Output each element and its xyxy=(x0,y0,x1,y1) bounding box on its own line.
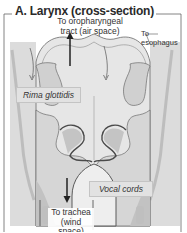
trachea-label: To trachea (wind space) xyxy=(48,208,94,232)
esophagus-label-line2: esophagus xyxy=(141,39,185,48)
esophagus-label: To esophagus xyxy=(141,30,185,47)
trachea-label-line2: (wind space) xyxy=(48,218,94,233)
vocal-cords-label: Vocal cords xyxy=(89,181,153,197)
rima-glottidis-label: Rima glottidis xyxy=(16,87,81,103)
oropharyngeal-label-line2: tract (air space) xyxy=(40,27,140,37)
oropharyngeal-label: To oropharyngeal tract (air space) xyxy=(40,17,140,36)
